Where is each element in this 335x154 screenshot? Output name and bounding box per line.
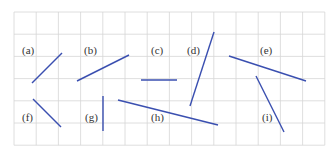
line-segment	[256, 76, 284, 132]
segment-label: (h)	[151, 111, 164, 124]
segment-label: (c)	[151, 44, 164, 57]
segment-label: (d)	[187, 44, 200, 57]
segment-label: (e)	[260, 44, 273, 57]
segment-label: (b)	[84, 44, 97, 57]
segment-label: (a)	[22, 44, 35, 57]
segment-label: (i)	[262, 111, 273, 124]
line-segment	[229, 56, 306, 81]
segment-grid-diagram: (a)(b)(c)(d)(e)(f)(g)(h)(i)	[0, 0, 335, 154]
line-segment	[118, 100, 218, 125]
segment-label: (g)	[85, 111, 98, 124]
grid	[14, 12, 325, 145]
segment-label: (f)	[22, 111, 33, 124]
